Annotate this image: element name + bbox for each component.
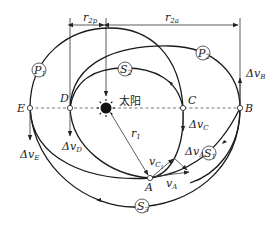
tag-p2: P2 — [196, 46, 210, 61]
orbit-p2-lower — [70, 108, 150, 178]
radius-r1 — [110, 112, 148, 175]
sun-label: 太阳 — [119, 95, 141, 108]
label-dve: ΔvE — [19, 148, 39, 162]
tag-s2: S2 — [118, 62, 133, 77]
label-c: C — [188, 94, 197, 107]
dva-vector — [174, 158, 187, 170]
label-dva: ΔvA — [184, 145, 204, 159]
label-a: A — [144, 181, 153, 194]
label-e: E — [16, 102, 25, 115]
point-a — [147, 175, 152, 180]
tag-p1: P1 — [32, 63, 46, 78]
label-va: vA — [166, 177, 177, 191]
orbit-p1-lower — [30, 108, 150, 178]
label-r2p: r2p — [83, 11, 98, 25]
label-r2a: r2a — [165, 11, 179, 25]
direction-arrow-s3 — [96, 198, 101, 202]
sun-icon — [97, 99, 115, 117]
direction-arrow-s1 — [222, 140, 227, 144]
label-b: B — [244, 102, 253, 115]
label-dvd: ΔvD — [61, 140, 82, 154]
point-c — [180, 105, 185, 110]
label-d: D — [59, 92, 69, 105]
point-b — [237, 105, 242, 110]
orbit-transfer-diagram: 太阳 E D C B A P1 P2 S2 S1 S3 r2p r2a r1 Δ… — [0, 0, 277, 229]
tag-s3: S3 — [135, 199, 150, 214]
label-vc1: vC1 — [149, 155, 164, 170]
label-dvb: ΔvB — [245, 67, 265, 81]
label-dvc: ΔvC — [188, 118, 209, 132]
label-r1: r1 — [131, 127, 141, 141]
point-d — [67, 105, 72, 110]
point-e — [27, 105, 32, 110]
